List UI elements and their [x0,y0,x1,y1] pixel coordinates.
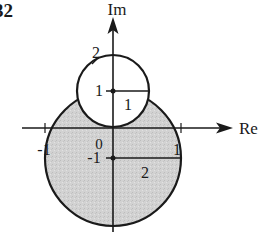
large-circle-center-dot [111,156,116,161]
small-circle-center-dot [111,89,116,94]
small-circle-center-label: 1 [95,82,103,99]
complex-plane-diagram: 32 Im Re 0 -1 1 1 1 2 -1 2 [0,0,275,234]
large-circle-radius-label: 2 [141,164,149,181]
imag-axis-label: Im [108,0,127,19]
small-circle-radius-label: 1 [124,96,132,113]
re-tick-neg-label: -1 [37,141,50,158]
real-axis-label: Re [239,119,258,138]
large-circle-center-label: -1 [87,149,100,166]
figure-number: 32 [0,0,13,21]
small-circle-diameter-label: 2 [92,44,100,61]
re-tick-pos-label: 1 [173,141,181,158]
